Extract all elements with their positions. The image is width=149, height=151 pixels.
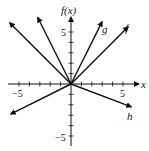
y-axis-label: f(x)	[61, 4, 77, 17]
series-label-h: h	[127, 110, 133, 122]
function-graph: x f(x) −5 5 5 −5 g f h	[0, 0, 149, 151]
y-tick-label-neg5: −5	[55, 132, 66, 143]
x-axis-label: x	[140, 78, 146, 90]
x-tick-label-5: 5	[120, 88, 125, 99]
line-g	[38, 17, 71, 84]
line-g	[71, 22, 102, 84]
series-label-g: g	[102, 23, 108, 35]
x-tick-label-neg5: −5	[12, 88, 23, 99]
series-label-f: f	[125, 22, 130, 34]
y-tick-label-5: 5	[61, 27, 66, 38]
line-f	[71, 27, 128, 84]
